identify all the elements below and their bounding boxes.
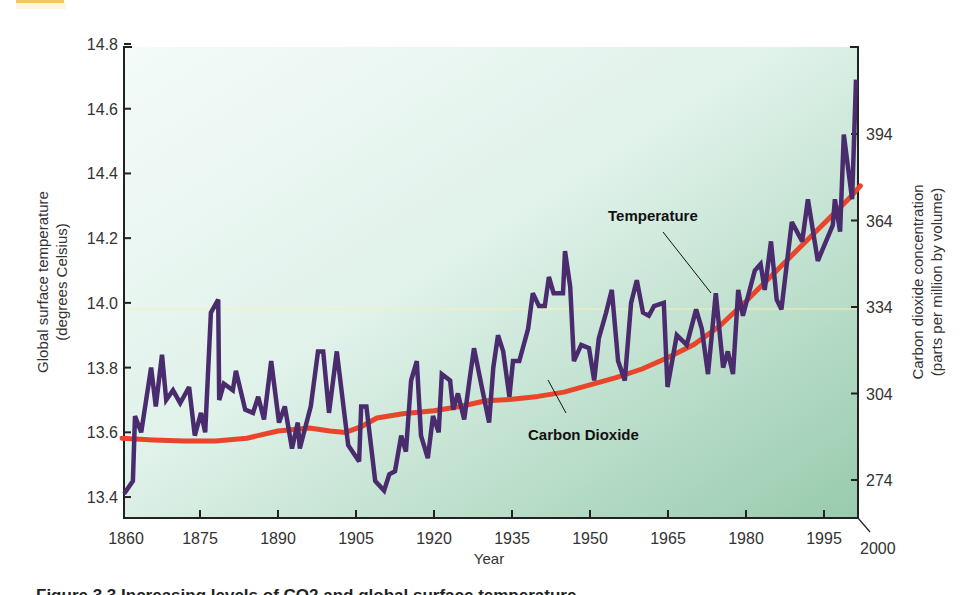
y-axis-title: Global surface temperature(degrees Celsi… <box>34 191 70 373</box>
x-axis-title: Year <box>474 550 504 567</box>
y-tick-label: 13.4 <box>87 489 118 506</box>
y-tick-label: 14.8 <box>87 36 118 53</box>
co2-label: Carbon Dioxide <box>528 426 639 443</box>
x-tick-label: 1890 <box>260 530 296 547</box>
figure-caption: Figure 3.3 Increasing levels of CO2 and … <box>36 586 576 595</box>
x-tick-label: 1875 <box>182 530 218 547</box>
x-tick-label: 1860 <box>108 530 144 547</box>
x-tick-label: 1980 <box>728 530 764 547</box>
x-tick-label: 1965 <box>650 530 686 547</box>
y-tick-label: 14.2 <box>87 230 118 247</box>
plot-area <box>124 47 858 518</box>
y-tick-label: 14.4 <box>87 165 118 182</box>
temperature-label: Temperature <box>608 207 698 224</box>
y2-tick-label: 334 <box>866 299 893 316</box>
y2-tick-label: 274 <box>866 472 893 489</box>
y-tick-label: 14.0 <box>87 295 118 312</box>
y-tick-label: 13.8 <box>87 360 118 377</box>
x-tick-label: 2000 <box>860 540 896 557</box>
co2-temperature-chart: 14.814.614.414.214.013.813.613.439436433… <box>0 0 976 595</box>
x-tick-label: 1950 <box>572 530 608 547</box>
y-tick-label: 14.6 <box>87 101 118 118</box>
x-tick-label: 1920 <box>416 530 452 547</box>
x-tick-2000-leader <box>858 518 870 532</box>
y2-tick-label: 304 <box>866 386 893 403</box>
y-tick-label: 13.6 <box>87 424 118 441</box>
x-tick-label: 1905 <box>338 530 374 547</box>
x-tick-label: 1935 <box>494 530 530 547</box>
y2-tick-label: 394 <box>866 126 893 143</box>
y2-tick-label: 364 <box>866 213 893 230</box>
y2-axis-title: Carbon dioxide concentration(parts per m… <box>909 184 945 379</box>
x-tick-label: 1995 <box>806 530 842 547</box>
